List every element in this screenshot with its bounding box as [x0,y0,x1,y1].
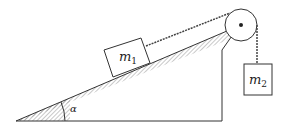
incline [16,28,234,121]
mass1-label: m1 [119,49,137,64]
mass1-symbol: m [119,49,131,64]
pulley [225,9,257,41]
mass2-label: m2 [249,72,267,87]
mass1-subscript: 1 [131,56,137,66]
mass2-symbol: m [249,72,261,87]
mass2-subscript: 2 [261,79,267,89]
diagram-canvas [0,0,290,129]
angle-label: α [70,103,77,114]
